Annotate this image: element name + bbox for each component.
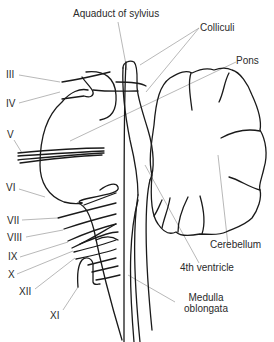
- label-nerve-VII: VII: [7, 215, 19, 226]
- leader-colliculi-2: [146, 28, 199, 92]
- colliculi-outline: [123, 61, 153, 180]
- label-aquaduct-of-sylvius: Aquaduct of sylvius: [73, 8, 159, 19]
- nerve-V-strand-3: [18, 153, 104, 160]
- nerve-X-fan: [96, 237, 118, 240]
- label-nerve-III: III: [6, 69, 14, 80]
- leader-XI: [63, 287, 78, 310]
- leader-IV: [19, 92, 60, 103]
- label-nerve-VI: VI: [6, 182, 15, 193]
- label-pons: Pons: [236, 55, 259, 66]
- cerebellum-fissure-1: [189, 73, 192, 110]
- leader-III: [19, 75, 60, 82]
- label-nerve-V: V: [7, 129, 14, 140]
- leader-V: [14, 140, 22, 153]
- leader-IX: [20, 242, 68, 257]
- nerve-XII-3: [92, 266, 118, 272]
- lower-nerves: [58, 184, 122, 340]
- leader-VI: [19, 189, 45, 197]
- diagram-drawing: [0, 0, 274, 342]
- label-nerve-IV: IV: [6, 98, 15, 109]
- cerebellum-outline: [150, 68, 266, 235]
- label-nerve-IX: IX: [8, 251, 17, 262]
- label-nerve-XII: XII: [19, 286, 31, 297]
- nerve-IV-curve: [62, 77, 93, 99]
- label-4th-ventricle: 4th ventricle: [180, 262, 234, 273]
- brainstem-anterior-line: [124, 62, 126, 342]
- cerebellum-fissure-3: [221, 130, 260, 138]
- label-nerve-X: X: [8, 269, 15, 280]
- ventricle-floor: [135, 195, 141, 342]
- label-medulla-line2: oblongata: [176, 303, 236, 314]
- pons-front-curve: [40, 90, 88, 204]
- nerve-X: [74, 240, 116, 252]
- nerve-XII-4: [96, 275, 120, 280]
- label-medulla-oblongata: Medulla oblongata: [176, 292, 236, 314]
- leader-XII: [35, 258, 75, 289]
- cerebellum-fissure-6: [178, 197, 188, 232]
- cerebellum-fissure-2: [219, 73, 229, 102]
- leader-VII: [22, 218, 57, 220]
- brainstem-diagram: Aquaduct of sylvius Colliculi Pons Cereb…: [0, 0, 274, 342]
- cerebellum-fissure-5: [200, 196, 204, 234]
- nerve-III-line: [62, 72, 110, 82]
- colliculi-bridge: [116, 82, 146, 86]
- label-nerve-VIII: VIII: [7, 232, 22, 243]
- label-nerve-XI: XI: [50, 310, 59, 321]
- nerve-VI: [84, 193, 116, 205]
- cerebellum-fissure-8: [154, 200, 162, 216]
- label-medulla-line1: Medulla: [176, 292, 236, 303]
- label-colliculi: Colliculi: [200, 22, 234, 33]
- nerve-V: [18, 148, 104, 163]
- leader-X: [17, 251, 73, 274]
- label-cerebellum: Cerebellum: [210, 239, 261, 250]
- leader-colliculi-1: [140, 28, 199, 65]
- cerebellum-fissure-4: [229, 177, 260, 190]
- ventricle-floor-2: [131, 200, 138, 342]
- leader-VIII: [26, 230, 63, 237]
